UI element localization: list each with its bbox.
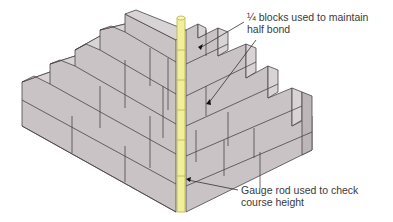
- gauge-rod-annotation: Gauge rod used to check course height: [241, 184, 358, 208]
- quarter-blocks-annotation: ¼ blocks used to maintain half bond: [247, 11, 368, 35]
- left-wall: [22, 10, 186, 212]
- annotation-line: Gauge rod used to check: [241, 184, 358, 196]
- annotation-line: course height: [241, 196, 358, 208]
- annotation-line: half bond: [247, 23, 368, 35]
- annotation-line: ¼ blocks used to maintain: [247, 11, 368, 23]
- gauge-rod: [177, 16, 185, 212]
